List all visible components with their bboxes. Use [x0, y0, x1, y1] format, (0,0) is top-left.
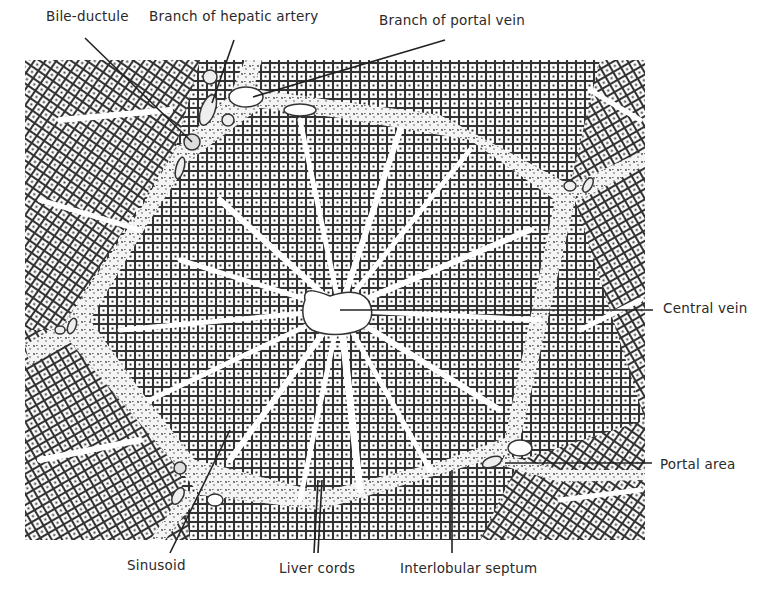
label-bile-ductule: Bile-ductule [46, 8, 129, 24]
label-portal-area: Portal area [660, 456, 735, 472]
label-hepatic-artery: Branch of hepatic artery [149, 8, 318, 24]
label-interlobular-septum: Interlobular septum [400, 560, 537, 576]
label-liver-cords: Liver cords [279, 560, 355, 576]
liver-lobule-illustration [0, 0, 764, 590]
label-central-vein: Central vein [663, 300, 747, 316]
label-portal-vein: Branch of portal vein [379, 12, 525, 28]
label-sinusoid: Sinusoid [127, 557, 186, 573]
central-vein [303, 291, 372, 335]
tissue-block [25, 60, 645, 540]
